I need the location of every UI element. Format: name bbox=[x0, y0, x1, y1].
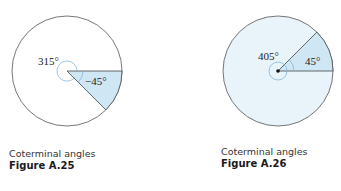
figure-a25: 315° −45° Coterminal angles Figure A.25 bbox=[0, 0, 170, 191]
caption-text: Coterminal angles bbox=[9, 148, 95, 160]
figure-a26: 405° 45° Coterminal angles Figure A.26 bbox=[170, 0, 341, 191]
coterminal-diagram-405: 405° 45° bbox=[170, 0, 341, 135]
center-point bbox=[276, 69, 280, 73]
caption-text: Coterminal angles bbox=[221, 146, 307, 158]
angle-315-label: 315° bbox=[38, 55, 59, 67]
angle-neg45-label: −45° bbox=[85, 75, 107, 87]
figure-number: Figure A.26 bbox=[221, 158, 307, 170]
figure-number: Figure A.25 bbox=[9, 160, 95, 172]
caption-a25: Coterminal angles Figure A.25 bbox=[9, 148, 95, 172]
coterminal-diagram-315: 315° −45° bbox=[0, 0, 170, 135]
angle-405-label: 405° bbox=[258, 50, 279, 62]
caption-a26: Coterminal angles Figure A.26 bbox=[221, 146, 307, 170]
angle-45-label: 45° bbox=[305, 55, 320, 67]
